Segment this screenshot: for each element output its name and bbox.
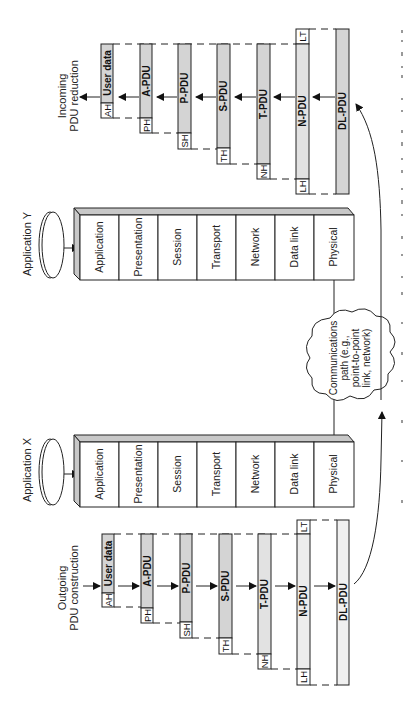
layer-transport: Transport: [210, 452, 222, 497]
header-label: LH: [298, 671, 309, 683]
layer-data-link: Data link: [288, 226, 300, 268]
pdu-label: DL-PDU: [338, 583, 349, 621]
cloud-text-line1: Communications: [328, 321, 339, 395]
header-label: SH: [179, 134, 190, 147]
application-x-stack: Application X Application Presentation S…: [21, 435, 354, 507]
outgoing-pdu-dl: DL-PDU: [337, 520, 349, 685]
outgoing-pdu-s: S-PDU TH: [219, 534, 232, 654]
layer-physical: Physical: [327, 227, 339, 266]
outgoing-pdu-stack: Outgoing PDU construction User data AH A…: [56, 520, 349, 685]
pdu-label: A-PDU: [142, 555, 153, 587]
header-label: AH: [103, 593, 114, 606]
outgoing-pdu-a: A-PDU PH: [141, 534, 153, 623]
header-label: TH: [220, 640, 231, 653]
header-label: PH: [141, 119, 152, 132]
pdu-label: P-PDU: [179, 72, 190, 103]
incoming-pdu-dl: DL-PDU: [336, 29, 349, 194]
pdu-label: T-PDU: [259, 579, 270, 609]
outgoing-title-line2: PDU construction: [68, 545, 80, 631]
cropped-caption-marks: [401, 30, 403, 503]
header-label: NH: [259, 655, 270, 669]
pdu-label: N-PDU: [297, 95, 308, 127]
pdu-label: P-PDU: [181, 562, 192, 593]
osi-pdu-diagram: Incoming PDU reduction User data AH A-PD…: [0, 0, 404, 703]
incoming-pdu-p: P-PDU SH: [178, 44, 191, 149]
stack-bevel-left: [74, 208, 80, 280]
header-label: AH: [102, 104, 113, 117]
cloud-text-line4: link, network): [361, 329, 372, 388]
pdu-label: User data: [102, 50, 113, 96]
layer-transport: Transport: [210, 225, 222, 270]
stack-bevel-top: [74, 435, 354, 442]
layer-data-link: Data link: [288, 453, 300, 495]
application-x-title: Application X: [21, 437, 33, 502]
pdu-label: S-PDU: [218, 80, 229, 111]
layer-network: Network: [249, 227, 261, 266]
layer-application: Application: [93, 448, 105, 500]
incoming-pdu-a: A-PDU PH: [140, 44, 152, 133]
layer-presentation: Presentation: [132, 444, 144, 503]
cloud-text-line2: path (e.g.,: [339, 335, 350, 380]
cloud-text-line3: point-to-point: [350, 329, 361, 388]
outgoing-pdu-p: P-PDU SH: [180, 534, 192, 638]
incoming-pdu-stack: Incoming PDU reduction User data AH A-PD…: [56, 29, 349, 194]
trailer-label: LT: [297, 31, 308, 42]
layer-application: Application: [93, 221, 105, 273]
pdu-label: S-PDU: [220, 570, 231, 601]
outgoing-pdu-n: LT N-PDU LH: [297, 520, 310, 685]
incoming-pdu-user-data: User data AH: [101, 44, 113, 118]
pdu-label: A-PDU: [141, 65, 152, 97]
incoming-title-line2: PDU reduction: [68, 60, 80, 132]
header-label: LH: [297, 180, 308, 192]
outgoing-title-line1: Outgoing: [56, 566, 68, 611]
incoming-title-line1: Incoming: [56, 74, 68, 119]
layer-session: Session: [171, 228, 183, 266]
incoming-pdu-t: T-PDU NH: [257, 44, 270, 179]
header-label: SH: [181, 623, 192, 636]
header-label: TH: [218, 150, 229, 163]
header-label: PH: [142, 609, 153, 622]
layer-presentation: Presentation: [132, 217, 144, 276]
transmit-curve-arrow: [354, 412, 382, 584]
application-disk-icon: [39, 212, 64, 278]
application-y-stack: Application Y Application Presentation S…: [21, 208, 354, 280]
layer-physical: Physical: [327, 454, 339, 493]
layer-network: Network: [249, 454, 261, 493]
stack-bevel-left: [74, 435, 80, 507]
application-disk-icon: [39, 439, 64, 505]
stack-bevel-top: [74, 208, 354, 215]
header-label: NH: [258, 165, 269, 179]
incoming-pdu-s: S-PDU TH: [217, 44, 230, 164]
application-y-title: Application Y: [21, 211, 33, 276]
pdu-label: User data: [103, 540, 114, 586]
incoming-pdu-n: LT N-PDU LH: [296, 29, 309, 194]
outgoing-pdu-t: T-PDU NH: [258, 534, 271, 669]
outgoing-pdu-user-data: User data AH: [102, 534, 114, 607]
pdu-label: DL-PDU: [337, 92, 348, 130]
pdu-label: T-PDU: [258, 89, 269, 119]
layer-session: Session: [171, 455, 183, 493]
trailer-label: LT: [298, 522, 309, 533]
pdu-label: N-PDU: [298, 585, 309, 617]
